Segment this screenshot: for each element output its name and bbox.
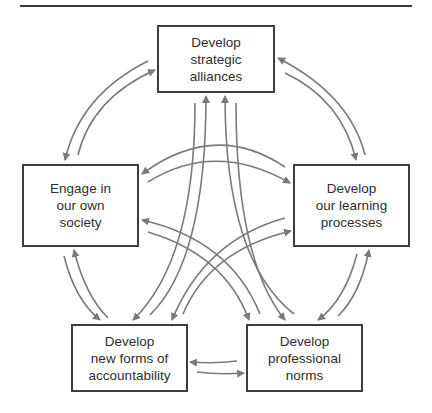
node-professional-norms: Develop professional norms: [246, 324, 363, 392]
node-label: Develop professional norms: [268, 333, 341, 384]
node-label: Develop new forms of accountability: [89, 333, 171, 384]
node-learning-processes: Develop our learning processes: [293, 164, 410, 247]
node-label: Develop strategic alliances: [190, 34, 243, 85]
node-label: Engage in our own society: [50, 180, 111, 231]
node-accountability: Develop new forms of accountability: [71, 324, 188, 392]
node-strategic-alliances: Develop strategic alliances: [157, 25, 275, 93]
node-label: Develop our learning processes: [316, 180, 387, 231]
node-engage-society: Engage in our own society: [22, 164, 139, 247]
